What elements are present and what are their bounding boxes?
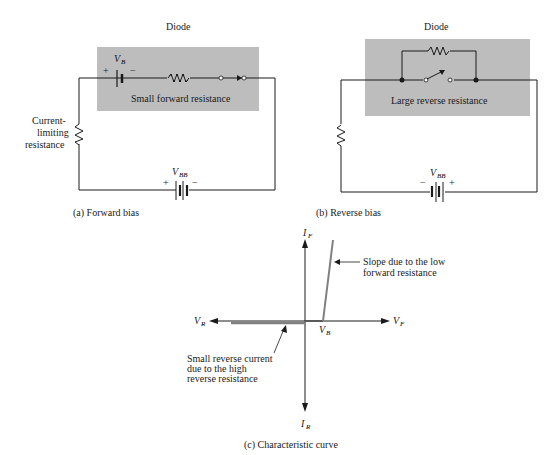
svg-text:−: − [130,65,136,76]
box-label-b: Large reverse resistance [391,95,488,106]
svg-text:I: I [302,227,307,238]
svg-text:R: R [305,423,311,431]
forward-bias-circuit: Diode + − V B Small forward resistance C… [25,21,275,219]
svg-text:−: − [192,177,198,188]
svg-text:Slope due to the low: Slope due to the low [363,256,446,267]
svg-text:R: R [200,320,206,328]
svg-text:I: I [300,418,305,429]
closed-switch-icon [219,76,223,80]
diode-title-a: Diode [166,21,191,32]
svg-text:resistance: resistance [25,139,65,150]
svg-text:BB: BB [179,171,188,179]
caption-a: (a) Forward bias [73,207,139,219]
svg-text:B: B [121,58,126,66]
caption-c: (c) Characteristic curve [244,439,338,451]
box-label-a: Small forward resistance [131,93,231,104]
svg-text:+: + [103,65,109,76]
node-dot [474,78,479,83]
svg-text:reverse resistance: reverse resistance [187,373,258,384]
svg-text:Current-: Current- [32,115,66,126]
reverse-annotation-arrow [274,329,284,353]
characteristic-curve: I F I R V F V R V B Slope due to the low… [187,227,446,451]
node-dot [400,78,405,83]
forward-slope-line [323,240,333,321]
svg-text:B: B [326,329,331,337]
svg-text:+: + [163,177,169,188]
svg-text:F: F [307,232,313,240]
svg-text:−: − [420,177,426,188]
reverse-bias-circuit: Diode Large reverse resistance − [316,21,537,219]
svg-text:F: F [399,320,405,328]
caption-b: (b) Reverse bias [316,207,381,219]
diode-title-b: Diode [424,21,449,32]
svg-text:limiting: limiting [37,127,69,138]
svg-text:forward resistance: forward resistance [363,267,437,278]
svg-text:+: + [449,177,455,188]
svg-text:BB: BB [437,172,446,180]
